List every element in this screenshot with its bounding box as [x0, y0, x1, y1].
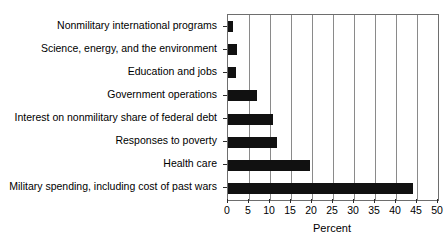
y-tick-mark — [223, 72, 227, 73]
x-tick-mark — [227, 199, 228, 203]
category-label: Military spending, including cost of pas… — [0, 181, 217, 192]
x-tick-mark — [311, 199, 312, 203]
y-tick-mark — [223, 95, 227, 96]
x-tick-mark — [416, 199, 417, 203]
x-tick-mark — [374, 199, 375, 203]
x-tick-mark — [248, 199, 249, 203]
x-tick-mark — [395, 199, 396, 203]
category-label: Health care — [0, 158, 217, 169]
bar — [228, 67, 236, 78]
y-tick-mark — [223, 49, 227, 50]
y-tick-mark — [223, 164, 227, 165]
x-tick-mark — [353, 199, 354, 203]
plot-area — [227, 14, 439, 201]
x-tick-mark — [290, 199, 291, 203]
category-label: Nonmilitary international programs — [0, 20, 217, 31]
bar-series — [228, 15, 438, 200]
y-tick-mark — [223, 118, 227, 119]
x-tick-mark — [437, 199, 438, 203]
x-tick-mark — [269, 199, 270, 203]
bar — [228, 21, 233, 32]
y-tick-mark — [223, 141, 227, 142]
y-tick-mark — [223, 187, 227, 188]
bar — [228, 90, 257, 101]
category-label: Science, energy, and the environment — [0, 43, 217, 54]
bar — [228, 137, 277, 148]
category-label: Responses to poverty — [0, 135, 217, 146]
category-label-column: Nonmilitary international programsScienc… — [0, 14, 222, 199]
category-label: Education and jobs — [0, 66, 217, 77]
category-label: Interest on nonmilitary share of federal… — [0, 112, 217, 123]
category-label: Government operations — [0, 89, 217, 100]
x-tick-mark — [332, 199, 333, 203]
bar — [228, 160, 310, 171]
x-tick-label: 50 — [425, 204, 448, 216]
x-axis-label: Percent — [227, 222, 437, 235]
bar — [228, 114, 273, 125]
bar-chart-screenshot: Nonmilitary international programsScienc… — [0, 0, 448, 245]
bar — [228, 44, 237, 55]
bar — [228, 183, 413, 194]
y-tick-mark — [223, 26, 227, 27]
